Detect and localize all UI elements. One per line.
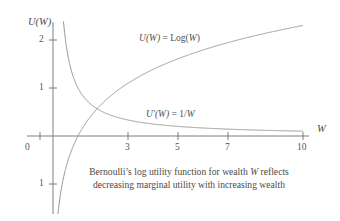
x-tick-label-3: 3: [125, 143, 130, 153]
y-tick-label-2: 2: [39, 35, 44, 45]
log-curve-label-fn: U: [139, 33, 146, 43]
caption-line-1-italic-w: W: [250, 166, 258, 177]
x-axis-title: W: [317, 124, 326, 135]
x-tick-label-7: 7: [225, 143, 230, 153]
caption-line-2: decreasing marginal utility with increas…: [64, 179, 314, 192]
deriv-curve-label-eq: = 1/: [169, 109, 187, 119]
caption-line-1-part-a: Bernoulli’s log utility function for wea…: [89, 166, 250, 177]
caption-line-1-part-b: reflects: [258, 166, 289, 177]
log-curve-label-eq: = Log(: [160, 33, 189, 43]
log-curve-label: U(W) = Log(W): [139, 34, 200, 44]
x-tick-label-5: 5: [175, 143, 180, 153]
figure-caption: Bernoulli’s log utility function for wea…: [64, 166, 314, 192]
log-curve-label-close: ): [197, 33, 200, 43]
y-tick-label-1: 1: [39, 83, 44, 93]
x-tick-label-10: 10: [297, 143, 307, 153]
deriv-curve-label-arg: (W): [155, 109, 169, 119]
y-tick-label-neg1: 1: [39, 179, 44, 189]
deriv-curve-label-fn: U′: [146, 109, 155, 119]
caption-line-1: Bernoulli’s log utility function for wea…: [64, 166, 314, 179]
log-curve-label-argb: W: [189, 33, 197, 43]
derivative-curve-label: U′(W) = 1/W: [146, 110, 195, 120]
deriv-curve-label-argb: W: [187, 109, 195, 119]
y-axis-title: U(W): [28, 17, 51, 28]
bernoulli-log-utility-figure: U(W) W 2 1 1 0 3 5 7 10 U(W) = Log(W) U′…: [0, 0, 340, 221]
x-tick-label-0: 0: [25, 143, 30, 153]
log-curve-label-arg: (W): [146, 33, 160, 43]
